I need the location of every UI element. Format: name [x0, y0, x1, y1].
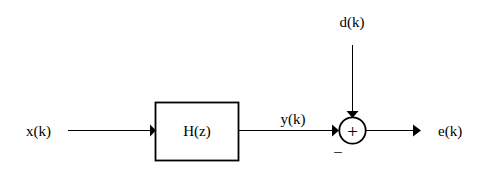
filter-block-label: H(z): [183, 123, 210, 140]
filter-output-label: y(k): [281, 111, 306, 128]
error-output-label: e(k): [438, 123, 462, 140]
desired-signal-label: d(k): [340, 14, 365, 31]
block-diagram-canvas: x(k) H(z) y(k) d(k) +: [0, 0, 488, 173]
summing-junction: +: [339, 117, 365, 143]
filter-block: H(z): [156, 103, 239, 161]
diagram-background: [0, 0, 488, 173]
block-diagram-svg: x(k) H(z) y(k) d(k) +: [0, 0, 488, 173]
input-signal-label: x(k): [26, 123, 51, 140]
summing-junction-plus-sign: +: [347, 121, 358, 142]
summing-junction-minus-sign: _: [333, 138, 342, 154]
